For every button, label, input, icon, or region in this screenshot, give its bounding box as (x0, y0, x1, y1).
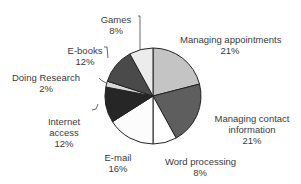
label-managing-contact: Managing contact information 21% (210, 113, 294, 146)
label-games-name: Games (98, 14, 134, 25)
leader-line (104, 47, 108, 58)
label-word-processing-name: Word processing (165, 156, 235, 167)
label-doing-research-pct: 2% (10, 83, 82, 94)
label-word-processing: Word processing 8% (165, 156, 235, 178)
label-managing-contact-pct: 21% (210, 135, 294, 146)
label-doing-research-name: Doing Research (10, 72, 82, 83)
label-email-name: E-mail (103, 152, 133, 163)
label-managing-appointments-pct: 21% (180, 45, 280, 56)
label-ebooks: E-books 12% (66, 45, 104, 67)
label-managing-contact-name-line2: information (210, 124, 294, 135)
label-games: Games 8% (98, 14, 134, 36)
leader-line (99, 78, 106, 83)
label-internet-access-pct: 12% (46, 138, 82, 149)
leader-line (138, 16, 140, 50)
label-ebooks-name: E-books (66, 45, 104, 56)
label-doing-research: Doing Research 2% (10, 72, 82, 94)
label-internet-access-name-line1: Internet (46, 116, 82, 127)
label-managing-contact-name-line1: Managing contact (210, 113, 294, 124)
leader-line (92, 104, 98, 110)
label-managing-appointments-name: Managing appointments (180, 34, 280, 45)
label-word-processing-pct: 8% (165, 167, 235, 178)
label-games-pct: 8% (98, 25, 134, 36)
label-email: E-mail 16% (103, 152, 133, 174)
label-managing-appointments: Managing appointments 21% (180, 34, 280, 56)
label-internet-access: Internet access 12% (46, 116, 82, 149)
label-ebooks-pct: 12% (66, 56, 104, 67)
label-internet-access-name-line2: access (46, 127, 82, 138)
label-email-pct: 16% (103, 163, 133, 174)
